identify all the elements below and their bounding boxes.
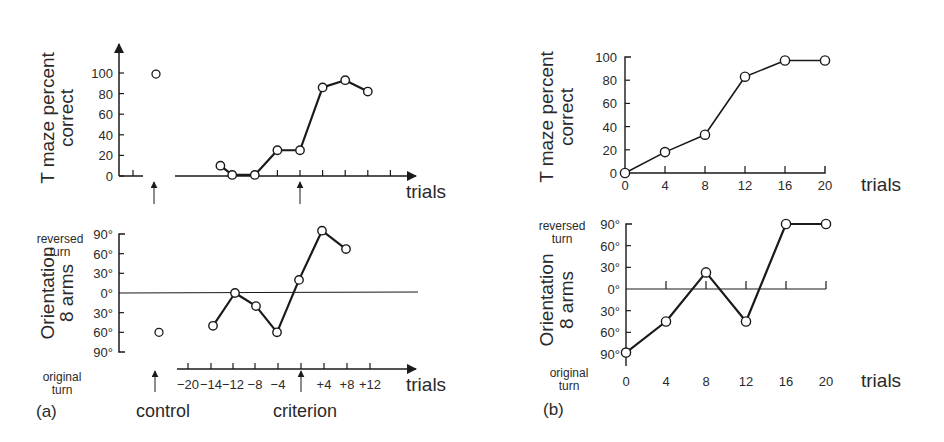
x-tick-label: −8 — [248, 377, 263, 392]
x-tick-label: +12 — [359, 377, 381, 392]
x-tick-label: 4 — [662, 374, 669, 389]
data-point — [821, 219, 830, 228]
data-line — [626, 224, 826, 353]
data-point — [318, 83, 326, 91]
y-tick-label: 90° — [600, 217, 620, 232]
x-axis-title: trials — [406, 181, 446, 202]
reversed-turn-label: turn — [50, 245, 71, 259]
x-tick-label: 20 — [819, 374, 833, 389]
control-data-point — [155, 328, 163, 336]
y-tick-label: 60° — [93, 325, 113, 340]
x-tick-label: 8 — [702, 374, 709, 389]
x-tick-label: 12 — [739, 374, 753, 389]
y-axis-title: 8 arms — [556, 271, 577, 329]
reversed-turn-label: reversed — [37, 232, 84, 246]
y-tick-label: 60° — [93, 247, 113, 262]
data-point — [661, 317, 670, 326]
y-axis-title: 8 arms — [56, 264, 77, 322]
control-data-point — [152, 70, 160, 78]
x-tick-label: −12 — [222, 377, 244, 392]
data-point — [342, 245, 350, 253]
x-axis-title: trials — [861, 370, 901, 391]
y-tick-label: 30° — [93, 306, 113, 321]
data-point — [273, 146, 281, 154]
data-line — [213, 231, 346, 333]
figure: 020406080100T maze percentcorrecttrials9… — [0, 0, 944, 442]
zero-line — [119, 292, 418, 293]
control-label: control — [136, 401, 190, 421]
data-point — [780, 56, 789, 65]
axes-frame — [625, 57, 825, 173]
y-tick-label: 0° — [608, 282, 620, 297]
y-tick-label: 0 — [106, 169, 113, 184]
y-axis-title: correct — [556, 87, 577, 146]
data-point — [741, 317, 750, 326]
data-point — [820, 56, 829, 65]
y-tick-label: 20 — [99, 148, 113, 163]
y-axis-title: T maze percent — [536, 50, 557, 182]
data-point — [216, 162, 224, 170]
y-tick-label: 60° — [600, 239, 620, 254]
data-point — [231, 289, 239, 297]
data-point — [252, 302, 260, 310]
y-tick-label: 100 — [91, 66, 113, 81]
data-point — [740, 72, 749, 81]
y-axis-title: Orientation — [37, 247, 58, 340]
series-layer — [152, 56, 831, 357]
x-tick-label: +8 — [340, 377, 355, 392]
data-point — [228, 171, 236, 179]
x-tick-label: 16 — [779, 374, 793, 389]
x-axis-title: trials — [861, 174, 901, 195]
y-tick-label: 0 — [610, 166, 617, 181]
criterion-label: criterion — [273, 401, 337, 421]
y-tick-label: 60 — [603, 96, 617, 111]
axes-layer — [119, 44, 826, 392]
data-point — [341, 76, 349, 84]
y-tick-label: 90° — [93, 227, 113, 242]
data-point — [364, 87, 372, 95]
data-point — [209, 322, 217, 330]
reversed-turn-label: reversed — [539, 219, 586, 233]
x-tick-label: 0 — [622, 374, 629, 389]
x-tick-label: 8 — [701, 178, 708, 193]
data-line — [625, 60, 825, 173]
x-tick-label: −20 — [177, 377, 199, 392]
y-tick-label: 90° — [93, 345, 113, 360]
y-tick-label: 0° — [101, 286, 113, 301]
x-axis-title: trials — [406, 374, 446, 395]
panel-label-b: (b) — [543, 400, 564, 419]
data-point — [295, 276, 303, 284]
data-point — [251, 171, 259, 179]
y-tick-label: 40 — [603, 120, 617, 135]
data-point — [296, 146, 304, 154]
x-tick-label: 0 — [621, 178, 628, 193]
text-layer: 020406080100T maze percentcorrecttrials9… — [36, 50, 901, 421]
data-point — [781, 219, 790, 228]
y-tick-label: 30° — [600, 260, 620, 275]
y-tick-label: 80 — [99, 87, 113, 102]
x-tick-label: −4 — [271, 377, 286, 392]
data-point — [701, 268, 710, 277]
original-turn-label: original — [550, 366, 589, 380]
data-point — [273, 328, 281, 336]
y-tick-label: 60 — [99, 107, 113, 122]
x-tick-label: 16 — [778, 178, 792, 193]
data-point — [620, 168, 629, 177]
panel-label-a: (a) — [36, 402, 57, 421]
y-tick-label: 80 — [603, 73, 617, 88]
x-tick-label: 20 — [818, 178, 832, 193]
y-tick-label: 30° — [93, 266, 113, 281]
data-point — [700, 130, 709, 139]
original-turn-label: original — [43, 370, 82, 384]
chart-canvas: 020406080100T maze percentcorrecttrials9… — [0, 0, 944, 442]
data-point — [621, 348, 630, 357]
y-tick-label: 40 — [99, 128, 113, 143]
y-tick-label: 100 — [595, 50, 617, 65]
data-point — [318, 227, 326, 235]
data-line — [220, 80, 367, 175]
original-turn-label: turn — [52, 383, 73, 397]
x-tick-label: +4 — [317, 377, 332, 392]
y-tick-label: 30° — [600, 304, 620, 319]
y-tick-label: 60° — [600, 325, 620, 340]
x-tick-label: −14 — [200, 377, 222, 392]
